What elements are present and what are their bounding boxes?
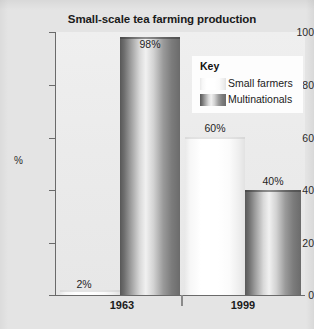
bar-value-1999-small-farmers: 60% — [185, 122, 245, 134]
bar-1999-small-farmers — [185, 137, 245, 295]
bar-value-1999-multinationals: 40% — [245, 175, 301, 187]
chart-figure: Small-scale tea farming production 100 8… — [0, 0, 314, 329]
y-tick-100 — [49, 32, 55, 33]
y-axis-line — [55, 32, 56, 296]
legend-label-multinationals: Multinationals — [228, 93, 292, 105]
y-tick-label-0: 0 — [268, 289, 314, 301]
chart-title: Small-scale tea farming production — [44, 13, 280, 25]
y-axis-title: % — [14, 155, 23, 166]
x-axis-label-1963: 1963 — [92, 299, 152, 311]
chart-legend: Key Small farmers Multinationals — [192, 56, 303, 113]
y-tick-0 — [49, 295, 55, 296]
bar-value-1963-small-farmers: 2% — [58, 278, 110, 290]
x-axis-label-1999: 1999 — [213, 299, 273, 311]
bar-cap — [185, 137, 245, 139]
y-tick-80 — [49, 85, 55, 86]
y-tick-label-100: 100 — [268, 26, 314, 38]
y-tick-label-20: 20 — [268, 237, 314, 249]
group-divider-tick — [181, 295, 183, 306]
bar-value-1963-multinationals: 98% — [120, 38, 180, 50]
y-tick-60 — [49, 138, 55, 139]
legend-label-small-farmers: Small farmers — [228, 77, 293, 89]
legend-swatch-multinationals-icon — [200, 94, 226, 106]
y-tick-20 — [49, 243, 55, 244]
y-tick-label-60: 60 — [268, 132, 314, 144]
legend-swatch-small-farmers-icon — [200, 78, 226, 90]
y-tick-40 — [49, 190, 55, 191]
bar-cap — [60, 290, 120, 292]
bar-1963-multinationals — [120, 37, 180, 295]
legend-title: Key — [200, 60, 219, 72]
